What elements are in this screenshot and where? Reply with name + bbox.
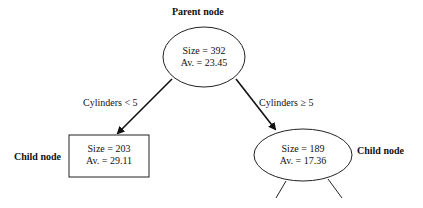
right-child-title: Child node [357,145,404,156]
parent-node-values: Size = 392 Av. = 23.45 [163,45,245,69]
right-child-stub-right [328,179,342,198]
right-child-values: Size = 189 Av. = 17.36 [254,143,352,167]
parent-size: Size = 392 [163,45,245,57]
right-child-size: Size = 189 [254,143,352,155]
left-child-size: Size = 203 [69,143,149,155]
parent-avg: Av. = 23.45 [163,57,245,69]
left-child-avg: Av. = 29.11 [69,155,149,167]
left-child-values: Size = 203 Av. = 29.11 [69,143,149,167]
left-edge-label: Cylinders < 5 [83,97,138,108]
right-child-avg: Av. = 17.36 [254,155,352,167]
parent-node-title: Parent node [172,6,224,17]
right-edge-label: Cylinders ≥ 5 [259,97,313,108]
left-child-title: Child node [14,151,61,162]
right-child-stub-left [276,181,286,198]
tree-diagram-graphics [0,0,423,208]
